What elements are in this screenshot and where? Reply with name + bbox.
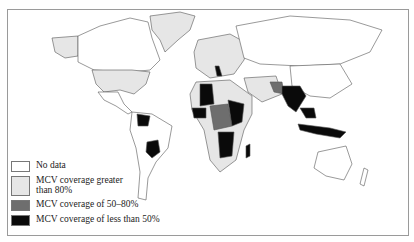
region-canada bbox=[78, 18, 160, 72]
region-madagascar bbox=[246, 144, 250, 158]
legend-item-no-data: No data bbox=[11, 160, 186, 172]
region-greenland bbox=[150, 12, 195, 52]
legend-label: MCV coverage of less than 50% bbox=[36, 214, 186, 224]
region-southeast-asia bbox=[300, 108, 316, 118]
legend-item-over-80: MCV coverage greater than 80% bbox=[11, 175, 186, 196]
region-alaska bbox=[52, 36, 78, 58]
region-central-africa bbox=[210, 104, 232, 130]
region-usa bbox=[92, 70, 150, 94]
legend-swatch bbox=[11, 200, 30, 211]
legend-swatch bbox=[11, 215, 30, 226]
legend-item-under-50: MCV coverage of less than 50% bbox=[11, 214, 186, 226]
region-russia bbox=[236, 16, 382, 66]
region-australia bbox=[314, 146, 352, 180]
legend-label: MCV coverage greater than 80% bbox=[36, 175, 131, 195]
region-indonesia bbox=[298, 124, 346, 138]
region-mexico bbox=[98, 92, 132, 114]
legend-swatch bbox=[11, 161, 30, 172]
legend-label: MCV coverage of 50–80% bbox=[36, 199, 186, 209]
legend-swatch bbox=[11, 176, 30, 196]
region-southern-africa bbox=[218, 132, 234, 158]
region-new-zealand bbox=[360, 168, 368, 186]
region-north-africa-sahel bbox=[200, 84, 214, 106]
legend-item-50-80: MCV coverage of 50–80% bbox=[11, 199, 186, 211]
legend: No data MCV coverage greater than 80% MC… bbox=[11, 160, 186, 229]
legend-label: No data bbox=[36, 160, 186, 170]
region-colombia-venezuela bbox=[137, 114, 150, 126]
region-west-africa bbox=[192, 108, 206, 118]
